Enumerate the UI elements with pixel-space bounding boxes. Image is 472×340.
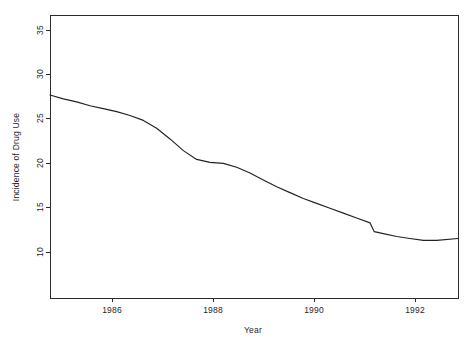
y-tick-label-10: 10 xyxy=(35,247,45,257)
line-chart-svg: 35 30 25 20 15 10 1986 1988 1990 1992 Ye… xyxy=(0,0,472,340)
y-tick-label-15: 15 xyxy=(35,202,45,212)
y-tick-label-25: 25 xyxy=(35,113,45,123)
y-axis-title: Incidence of Drug Use xyxy=(11,113,21,201)
x-tick-label-1986: 1986 xyxy=(102,305,122,315)
y-tick-label-35: 35 xyxy=(35,25,45,35)
chart-background xyxy=(0,0,472,340)
chart-figure: 35 30 25 20 15 10 1986 1988 1990 1992 Ye… xyxy=(0,0,472,340)
x-axis-title: Year xyxy=(244,325,262,335)
x-tick-label-1990: 1990 xyxy=(304,305,324,315)
x-tick-label-1988: 1988 xyxy=(203,305,223,315)
y-tick-label-20: 20 xyxy=(35,158,45,168)
x-tick-label-1992: 1992 xyxy=(405,305,425,315)
y-tick-label-30: 30 xyxy=(35,69,45,79)
